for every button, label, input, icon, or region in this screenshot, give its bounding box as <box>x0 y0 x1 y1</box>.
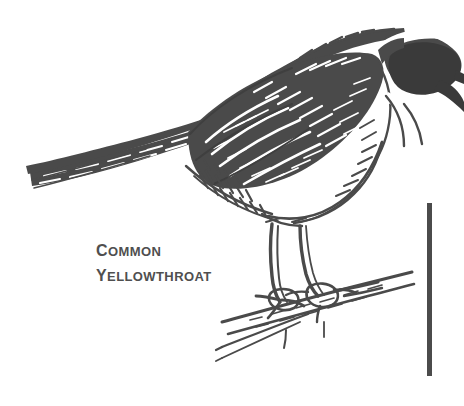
bird-illustration <box>0 0 464 406</box>
illustration-page: COMMON YELLOWTHROAT <box>0 0 464 406</box>
vertical-rule <box>427 203 432 376</box>
caption-line1-rest: OMMON <box>108 244 161 259</box>
caption-line2-initial: Y <box>96 267 107 284</box>
species-caption: COMMON YELLOWTHROAT <box>96 239 266 289</box>
caption-line1-initial: C <box>96 242 108 259</box>
caption-line-common: COMMON <box>96 239 266 264</box>
caption-line2-rest: ELLOWTHROAT <box>107 269 212 284</box>
caption-line-yellowthroat: YELLOWTHROAT <box>96 264 266 289</box>
